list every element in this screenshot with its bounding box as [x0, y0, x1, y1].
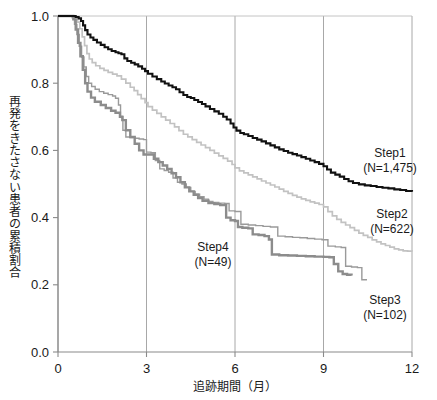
x-tick-labels: 036912 [54, 352, 419, 376]
series-label-step1: Step1 [374, 146, 406, 160]
series-label-step2: Step2 [376, 207, 408, 221]
y-axis-title: 再発をきたさない患者の累積割合 [6, 96, 24, 280]
y-axis-title-char-10: の [6, 218, 24, 230]
series-label-step3: Step3 [369, 293, 401, 307]
y-tick-label-0.8: 0.8 [31, 76, 49, 91]
y-axis-title-char-6: な [6, 169, 24, 181]
y-tick-label-0.4: 0.4 [31, 210, 49, 225]
y-tick-labels: 0.00.20.40.60.81.0 [31, 9, 58, 360]
series-count-step4: (N=49) [194, 255, 231, 269]
x-axis-title: 追跡期間（月） [193, 379, 277, 394]
y-tick-label-1.0: 1.0 [31, 9, 49, 24]
series-count-step1: (N=1,475) [363, 161, 417, 175]
y-tick-label-0.6: 0.6 [31, 143, 49, 158]
series-annotations: Step1(N=1,475)Step2(N=622)Step3(N=102)St… [194, 146, 416, 322]
kaplan-meier-chart: 0.00.20.40.60.81.0 036912 Step1(N=1,475)… [0, 0, 437, 400]
x-tick-label-3: 3 [143, 361, 150, 376]
x-tick-label-12: 12 [405, 361, 419, 376]
series-count-step3: (N=102) [363, 308, 407, 322]
y-axis-title-char-11: 累 [6, 231, 24, 243]
series-label-step4: Step4 [197, 240, 229, 254]
x-tick-label-6: 6 [231, 361, 238, 376]
y-axis-title-char-14: 合 [6, 267, 24, 279]
x-tick-label-0: 0 [54, 361, 61, 376]
x-tick-label-9: 9 [320, 361, 327, 376]
y-tick-label-0.0: 0.0 [31, 345, 49, 360]
y-tick-label-0.2: 0.2 [31, 277, 49, 292]
km-survival-figure: 再発をきたさない患者の累積割合 0.00.20.40.60.81.0 03691… [0, 0, 437, 400]
y-axis-title-char-2: を [6, 120, 24, 132]
series-count-step2: (N=622) [370, 222, 414, 236]
